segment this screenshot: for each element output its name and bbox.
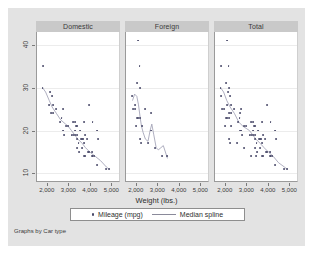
data-point [88,104,90,106]
data-point [262,155,264,157]
data-point [261,142,263,144]
legend: Mileage (mpg) Median spline [70,208,245,221]
data-point [228,138,230,140]
x-tick [111,183,112,186]
data-point [51,95,53,97]
data-point [254,147,256,149]
x-tick [200,183,201,186]
data-point [161,155,163,157]
data-point [150,112,152,114]
data-point [270,121,272,123]
data-point [76,138,78,140]
data-point [137,40,139,42]
data-point [230,112,232,114]
data-point [139,117,141,119]
data-point [233,108,235,110]
data-point [63,130,65,132]
x-tick-label: 2,000 [39,187,54,193]
data-point [96,130,98,132]
x-tick-label: 4,000 [82,187,97,193]
data-point [140,142,142,144]
data-point [250,155,252,157]
x-tick-label: 2,000 [128,187,143,193]
data-point [274,130,276,132]
data-point [245,125,247,127]
data-point [256,151,258,153]
data-point [266,151,268,153]
data-point [254,138,256,140]
data-point [269,155,271,157]
x-tick [225,183,226,186]
data-point [134,104,136,106]
dot-marker-icon [92,213,94,215]
data-point [75,125,77,127]
median-spline-line [37,32,120,182]
data-point [83,142,85,144]
data-point [78,142,80,144]
data-point [228,65,230,67]
data-point [43,65,45,67]
data-point [86,138,88,140]
x-tick-label: 5,000 [193,187,208,193]
data-point [256,142,258,144]
data-point [225,82,227,84]
data-point [262,134,264,136]
data-point [236,142,238,144]
legend-item-mileage: Mileage (mpg) [92,211,143,218]
plot-area-foreign [125,32,209,182]
data-point [81,147,83,149]
data-point [67,125,69,127]
data-point [241,130,243,132]
y-tick-label: 30 [22,82,29,92]
data-point [154,147,156,149]
x-tick [246,183,247,186]
data-point [230,104,232,106]
x-tick-label: 3,000 [239,187,254,193]
data-point [227,91,229,93]
data-point [166,155,168,157]
x-axis-title: Weight (lbs.) [8,196,305,205]
data-point [42,87,44,89]
data-point [221,65,223,67]
graph-note: Graphs by Car type [14,228,66,234]
plot-area-domestic [36,32,120,182]
data-point [269,151,271,153]
data-point [229,95,231,97]
data-point [254,134,256,136]
data-point [224,125,226,127]
data-point [141,125,143,127]
data-point [241,134,243,136]
panel-title-foreign: Foreign [125,21,209,32]
data-point [243,147,245,149]
x-tick-label: 2,000 [217,187,232,193]
data-point [221,95,223,97]
data-point [134,108,136,110]
data-point [226,40,228,42]
data-point [97,138,99,140]
data-point [52,112,54,114]
legend-label-mileage: Mileage (mpg) [98,211,143,218]
data-point [252,130,254,132]
plot-area-total [214,32,298,182]
data-point [78,151,80,153]
data-point [237,121,239,123]
data-point [257,130,259,132]
data-point [250,134,252,136]
x-tick [68,183,69,186]
data-point [48,104,50,106]
data-point [240,108,242,110]
x-tick [90,183,91,186]
data-point [139,87,141,89]
data-point [84,134,86,136]
data-point [239,112,241,114]
y-tick-label: 10 [22,168,29,178]
x-tick [157,183,158,186]
data-point [74,130,76,132]
data-point [136,82,138,84]
data-point [96,164,98,166]
data-point [72,134,74,136]
data-point [223,108,225,110]
data-point [79,130,81,132]
panel-title-domestic: Domestic [36,21,120,32]
data-point [255,155,257,157]
